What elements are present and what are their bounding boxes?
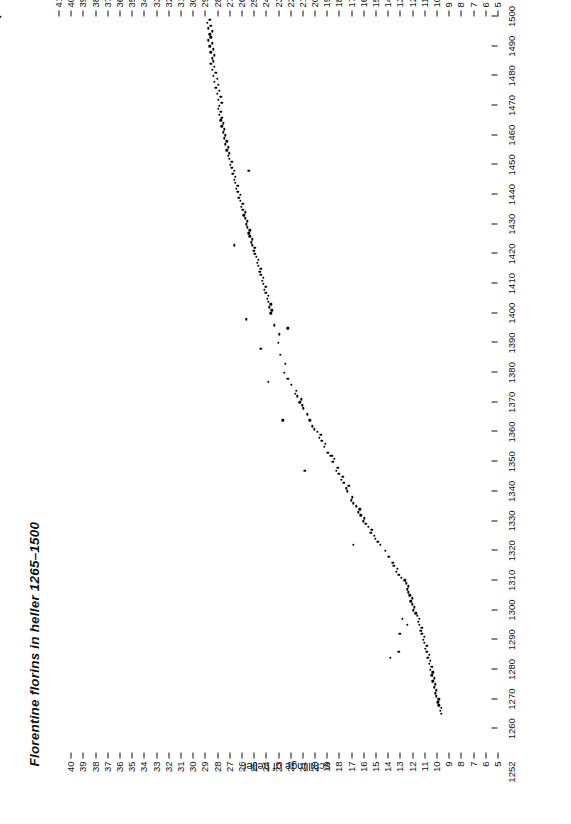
data-point <box>354 504 356 506</box>
data-point <box>409 599 411 601</box>
data-point <box>332 457 334 459</box>
data-point <box>302 407 304 409</box>
data-point <box>273 323 275 325</box>
data-point <box>256 261 258 263</box>
data-point <box>236 190 238 192</box>
data-point <box>414 611 416 613</box>
data-point <box>245 223 247 225</box>
data-point <box>208 33 210 35</box>
data-point <box>237 196 239 198</box>
data-point <box>349 499 351 501</box>
data-point <box>396 567 398 569</box>
data-point <box>313 427 315 429</box>
data-point <box>217 83 219 85</box>
data-point <box>432 677 434 679</box>
data-point <box>259 267 261 269</box>
data-point <box>320 439 322 441</box>
data-point <box>263 288 265 290</box>
data-point-outlier <box>247 169 249 171</box>
data-point <box>212 59 214 61</box>
data-point <box>208 18 210 20</box>
data-point <box>220 116 222 118</box>
data-point <box>224 134 226 136</box>
data-point <box>219 110 221 112</box>
data-point <box>210 56 212 58</box>
data-point <box>395 570 397 572</box>
data-point <box>336 466 338 468</box>
data-point <box>337 472 339 474</box>
data-point <box>440 712 442 714</box>
data-point <box>270 309 272 311</box>
data-point <box>407 585 409 587</box>
data-point <box>221 122 223 124</box>
data-point <box>247 231 249 233</box>
data-point <box>374 537 376 539</box>
data-point <box>436 700 438 702</box>
data-point <box>251 237 253 239</box>
data-point <box>323 445 325 447</box>
data-point <box>207 39 209 41</box>
data-point <box>373 534 375 536</box>
data-point <box>421 638 423 640</box>
data-point <box>251 243 253 245</box>
data-point <box>430 665 432 667</box>
data-point <box>209 50 211 52</box>
data-point <box>249 240 251 242</box>
data-point <box>429 668 431 670</box>
data-point <box>0 15 1 17</box>
data-point <box>258 270 260 272</box>
data-point <box>425 644 427 646</box>
data-point <box>346 490 348 492</box>
data-point <box>226 145 228 147</box>
data-point <box>225 139 227 141</box>
data-point <box>252 249 254 251</box>
data-point <box>234 175 236 177</box>
data-point <box>431 671 433 673</box>
data-point <box>310 424 312 426</box>
data-point <box>212 74 214 76</box>
data-point <box>425 650 427 652</box>
data-point-outlier <box>281 418 283 420</box>
data-point <box>259 273 261 275</box>
data-point <box>319 433 321 435</box>
data-point-outlier <box>388 656 390 658</box>
data-point <box>428 662 430 664</box>
data-point <box>215 92 217 94</box>
data-point <box>215 77 217 79</box>
data-point <box>403 579 405 581</box>
data-point <box>431 680 433 682</box>
data-point <box>262 276 264 278</box>
data-point <box>410 602 412 604</box>
data-point <box>426 656 428 658</box>
data-point <box>308 418 310 420</box>
data-point <box>397 573 399 575</box>
data-point <box>434 683 436 685</box>
data-point <box>407 591 409 593</box>
data-point <box>212 47 214 49</box>
data-point <box>428 653 430 655</box>
data-point <box>230 166 232 168</box>
data-point <box>397 650 399 652</box>
data-point <box>248 228 250 230</box>
data-point <box>406 588 408 590</box>
data-point <box>260 279 262 281</box>
data-point <box>418 623 420 625</box>
data-point <box>299 398 301 400</box>
data-point <box>267 294 269 296</box>
data-point <box>418 617 420 619</box>
data-point <box>398 632 400 634</box>
data-point <box>257 258 259 260</box>
data-point <box>335 469 337 471</box>
data-point-outlier <box>245 318 247 320</box>
data-point <box>430 674 432 676</box>
data-point <box>238 199 240 201</box>
data-point <box>410 596 412 598</box>
data-point <box>213 53 215 55</box>
data-point <box>243 211 245 213</box>
data-point <box>419 629 421 631</box>
data-point-outlier <box>232 243 234 245</box>
data-point <box>220 101 222 103</box>
data-point <box>207 27 209 29</box>
data-point <box>392 564 394 566</box>
data-point-outlier <box>330 454 332 456</box>
